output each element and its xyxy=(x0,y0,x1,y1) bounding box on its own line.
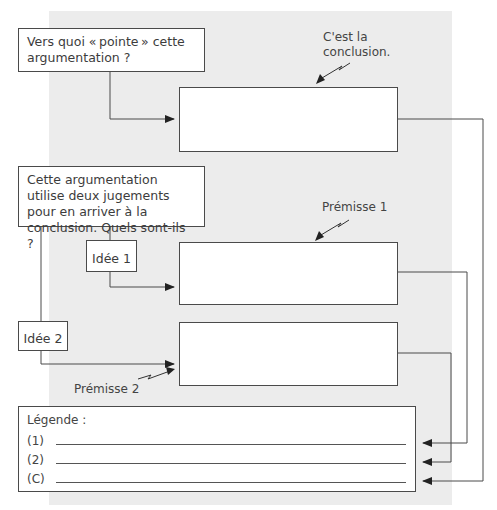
idea2-label: Idée 2 xyxy=(24,331,63,346)
legend-line-1[interactable] xyxy=(56,444,406,445)
idea1-label: Idée 1 xyxy=(92,251,131,266)
idea1-box: Idée 1 xyxy=(86,240,137,272)
question-conclusion-box: Vers quoi « pointe » cette argumentation… xyxy=(18,28,205,72)
conclusion-note: C'est la conclusion. xyxy=(323,30,388,60)
legend-key-2: (2) xyxy=(27,453,44,467)
legend-line-c[interactable] xyxy=(56,482,406,483)
legend-box: Légende : (1) (2) (C) xyxy=(18,406,416,492)
idea2-box: Idée 2 xyxy=(18,321,68,351)
question-conclusion-text: Vers quoi « pointe » cette argumentation… xyxy=(27,34,196,66)
premise1-answer-box[interactable] xyxy=(179,242,398,305)
premise1-note: Prémisse 1 xyxy=(322,200,387,215)
legend-line-2[interactable] xyxy=(56,463,406,464)
legend-key-1: (1) xyxy=(27,434,44,448)
legend-key-c: (C) xyxy=(27,472,45,486)
premise2-answer-box[interactable] xyxy=(179,322,398,386)
legend-title: Légende : xyxy=(27,413,86,427)
conclusion-answer-box[interactable] xyxy=(179,87,398,152)
question-premises-box: Cette argumentation utilise deux jugemen… xyxy=(18,166,205,227)
premise2-note: Prémisse 2 xyxy=(74,382,139,397)
